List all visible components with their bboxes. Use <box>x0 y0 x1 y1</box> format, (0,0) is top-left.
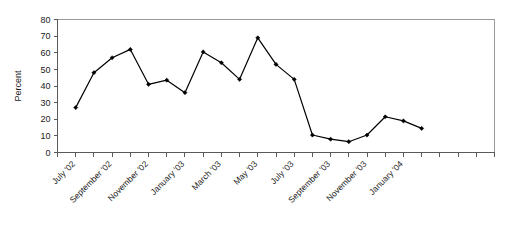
y-tick-label: 60 <box>40 48 50 58</box>
y-tick-label: 10 <box>40 131 50 141</box>
y-axis-title: Percent <box>13 70 23 102</box>
y-tick-label: 30 <box>40 98 50 108</box>
chart-figure: 01020304050607080 July '02September '02N… <box>0 0 506 230</box>
y-tick-label: 20 <box>40 114 50 124</box>
y-tick-label: 70 <box>40 31 50 41</box>
y-tick-label: 50 <box>40 65 50 75</box>
y-tick-label: 0 <box>45 148 50 158</box>
y-tick-group: 01020304050607080 <box>40 15 57 158</box>
y-tick-label: 40 <box>40 81 50 91</box>
line-chart: 01020304050607080 July '02September '02N… <box>0 0 506 230</box>
y-tick-label: 80 <box>40 15 50 25</box>
y-axis: 01020304050607080 <box>40 15 57 158</box>
